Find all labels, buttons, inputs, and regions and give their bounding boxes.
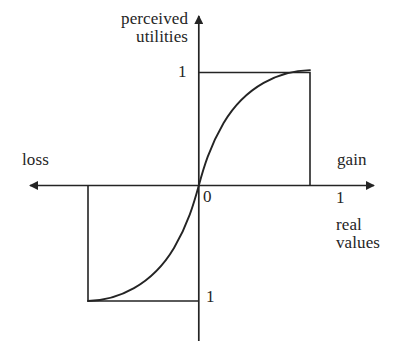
- utility-curve-figure: perceived utilities real values loss gai…: [0, 0, 411, 357]
- x-axis-title: real values: [336, 216, 408, 253]
- y-axis-title-line2: utilities: [96, 28, 188, 46]
- y-axis-title-line1: perceived: [96, 10, 188, 28]
- origin-label: 0: [203, 188, 212, 206]
- x-axis-title-line1: real: [336, 216, 408, 234]
- y-axis-tick-one: 1: [178, 63, 187, 81]
- x-axis-tick-one: 1: [336, 189, 345, 207]
- y-axis-title: perceived utilities: [96, 10, 188, 47]
- gain-region-label: gain: [337, 151, 367, 169]
- y-axis-tick-negative-one: 1: [206, 288, 215, 306]
- x-axis-title-line2: values: [336, 234, 408, 252]
- reference-box-lower-left: [88, 186, 199, 302]
- loss-region-label: loss: [22, 151, 49, 169]
